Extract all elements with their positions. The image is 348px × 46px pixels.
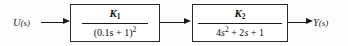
input-argument: (s) <box>21 18 31 28</box>
block-1-denominator-exponent: 2 <box>132 25 136 34</box>
arrowhead-middle-icon <box>184 18 191 24</box>
arrowhead-input-icon <box>63 18 70 24</box>
wire-input <box>41 22 64 23</box>
transfer-function-1: K1 (0.1s + 1)2 <box>82 8 148 39</box>
output-signal-label: Y(s) <box>313 18 328 29</box>
block-2-numerator-subscript: 2 <box>242 12 246 21</box>
block-1-fraction-bar <box>82 23 148 24</box>
block-2-numerator: K2 <box>234 8 245 22</box>
block-1-numerator: K1 <box>109 8 120 22</box>
block-1-denominator: (0.1s + 1)2 <box>94 25 136 38</box>
wire-middle <box>160 22 185 23</box>
block-2-numerator-symbol: K <box>234 7 241 19</box>
block-1-numerator-subscript: 1 <box>117 12 121 21</box>
arrowhead-output-icon <box>306 18 313 24</box>
block-diagram: U(s) K1 (0.1s + 1)2 K2 4s2 + 2s + 1 Y(s) <box>0 0 348 46</box>
block-1-denominator-text: (0.1s + 1) <box>94 27 133 38</box>
input-signal-label: U(s) <box>13 18 30 29</box>
transfer-function-block-2: K2 4s2 + 2s + 1 <box>192 4 288 42</box>
input-variable: U <box>13 17 21 28</box>
block-2-den-term-2: + 2 <box>231 27 244 38</box>
block-2-den-term-3: + 1 <box>251 27 264 38</box>
output-argument: (s) <box>319 18 329 28</box>
block-2-fraction-bar <box>198 23 282 24</box>
transfer-function-2: K2 4s2 + 2s + 1 <box>198 8 282 39</box>
block-1-numerator-symbol: K <box>109 7 116 19</box>
wire-output <box>288 22 308 23</box>
transfer-function-block-1: K1 (0.1s + 1)2 <box>70 4 160 42</box>
block-2-denominator: 4s2 + 2s + 1 <box>216 25 264 38</box>
